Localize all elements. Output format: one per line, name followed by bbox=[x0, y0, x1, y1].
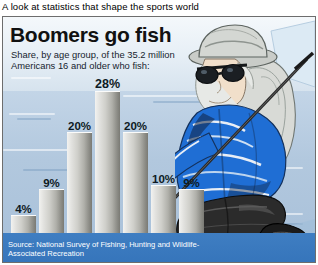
bar-value-label: 4% bbox=[4, 203, 43, 215]
bar bbox=[179, 189, 204, 237]
page-title: Boomers go fish bbox=[10, 23, 171, 47]
infographic-root: A look at statistics that shape the spor… bbox=[0, 0, 318, 265]
bar bbox=[39, 189, 64, 237]
bar-value-label: 9% bbox=[172, 177, 211, 189]
bar-value-label: 20% bbox=[116, 120, 155, 132]
bar bbox=[151, 185, 176, 237]
bar bbox=[67, 132, 92, 237]
bar-chart: 4% 9% 20% 28% 20% 10% bbox=[11, 83, 207, 238]
ripple-decoration bbox=[11, 77, 51, 79]
bar-value-label: 28% bbox=[88, 77, 127, 91]
source-text: Source: National Survey of Fishing, Hunt… bbox=[8, 240, 213, 259]
kicker-line: A look at statistics that shape the spor… bbox=[2, 1, 316, 15]
page-subtitle: Share, by age group, of the 35.2 million… bbox=[11, 49, 211, 72]
bar-value-label: 9% bbox=[32, 177, 71, 189]
bar bbox=[95, 91, 120, 237]
graphic-panel: Boomers go fish Share, by age group, of … bbox=[2, 16, 316, 263]
bar-value-label: 20% bbox=[60, 120, 99, 132]
